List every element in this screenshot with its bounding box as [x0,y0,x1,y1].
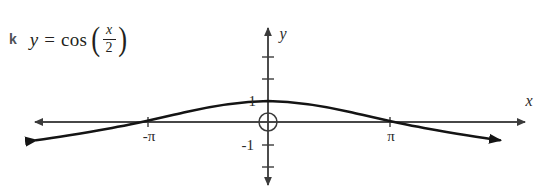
y-axis-label: y [277,25,287,43]
x-tick-label-minus-pi: -π [143,128,156,144]
x-axis-label: x [524,92,532,109]
figure-root: k y = cos ( x 2 ) [0,0,549,194]
cosine-graph: x y 1 -1 -π π [0,0,549,194]
x-tick-label-pi: π [387,128,395,144]
y-tick-label-minus-1: -1 [242,137,255,153]
y-tick-label-1: 1 [249,93,257,109]
